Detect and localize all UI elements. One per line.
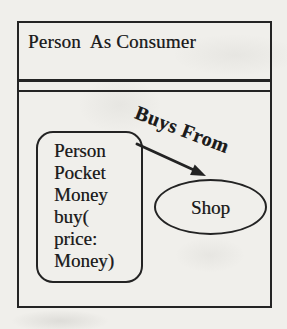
class-box-line: Pocket <box>54 162 141 184</box>
class-box-line: Person <box>54 140 141 162</box>
class-box-line: Money <box>54 184 141 206</box>
shop-ellipse: Shop <box>154 179 267 235</box>
class-box-line: price: <box>54 228 141 250</box>
separator-line-top <box>17 79 272 82</box>
shop-label: Shop <box>191 195 230 219</box>
class-box-line: Money) <box>54 250 141 272</box>
scanned-diagram-page: Person As Consumer Person Pocket Money b… <box>0 0 287 329</box>
frame-title: Person As Consumer <box>28 31 196 53</box>
separator-line-bottom <box>17 90 272 93</box>
person-class-box: Person Pocket Money buy( price: Money) <box>36 131 143 283</box>
class-box-line: buy( <box>54 206 141 228</box>
